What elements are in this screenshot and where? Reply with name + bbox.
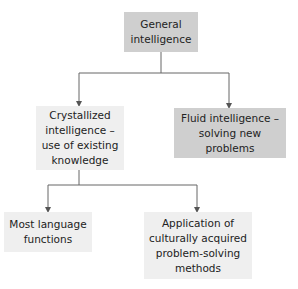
node-fluid-intelligence: Fluid intelligence – solving new problem… — [174, 108, 286, 158]
node-label: Crystallized intelligence – use of exist… — [42, 108, 119, 168]
node-label: General intelligence — [131, 17, 192, 47]
node-general-intelligence: General intelligence — [124, 12, 198, 52]
node-label: Application of culturally acquired probl… — [149, 216, 247, 276]
node-application-problem-solving: Application of culturally acquired probl… — [144, 212, 252, 279]
node-label: Most language functions — [9, 217, 86, 247]
node-most-language-functions: Most language functions — [4, 212, 92, 252]
node-label: Fluid intelligence – solving new problem… — [181, 111, 279, 156]
node-crystallized-intelligence: Crystallized intelligence – use of exist… — [36, 106, 124, 170]
